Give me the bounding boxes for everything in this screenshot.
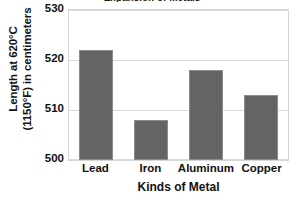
- x-tick-label-iron: Iron: [123, 162, 178, 175]
- x-tick-label-lead: Lead: [68, 162, 123, 175]
- bar-copper[interactable]: [244, 95, 278, 160]
- bar-slot-iron: [124, 10, 179, 160]
- x-axis-title: Kinds of Metal: [68, 180, 289, 194]
- y-axis-title-line-1: Length at 620°C: [6, 26, 20, 112]
- y-axis-tick-labels: 530 520 510 500: [38, 9, 64, 161]
- bar-slot-aluminum: [179, 10, 234, 160]
- y-axis-title-line-2: (1150°F) in centimeters: [20, 7, 34, 130]
- y-tick-label-520: 520: [38, 53, 64, 64]
- bars-layer: [69, 10, 288, 160]
- bar-slot-lead: [69, 10, 124, 160]
- chart-title: Expansion of Metals: [92, 0, 212, 2]
- y-tick-label-510: 510: [38, 103, 64, 114]
- bar-lead[interactable]: [79, 50, 113, 160]
- x-axis-tick-labels: Lead Iron Aluminum Copper: [68, 162, 289, 178]
- bar-slot-copper: [233, 10, 288, 160]
- y-axis-title: Length at 620°C (1150°F) in centimeters: [3, 0, 37, 144]
- bar-iron[interactable]: [134, 120, 168, 160]
- x-tick-label-aluminum: Aluminum: [178, 162, 234, 175]
- bar-chart-screenshot: Expansion of Metals Length at 620°C (115…: [0, 0, 297, 204]
- bar-aluminum[interactable]: [189, 70, 223, 160]
- y-tick-label-530: 530: [38, 3, 64, 14]
- x-tick-label-copper: Copper: [234, 162, 289, 175]
- y-tick-label-500: 500: [38, 153, 64, 164]
- plot-area: [68, 9, 289, 161]
